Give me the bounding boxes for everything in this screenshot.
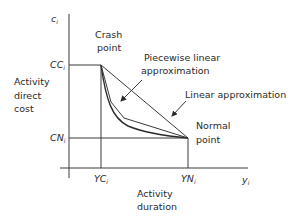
- piecewise-arrow: [121, 80, 142, 101]
- linear-label: Linear approximation: [185, 89, 286, 100]
- piecewise-label-line1: Piecewise linear: [144, 52, 220, 63]
- linear-arrow: [172, 101, 186, 116]
- x-axis-symbol: yi: [241, 174, 250, 186]
- yn-label: YNi: [181, 173, 196, 185]
- y-axis-label-line1: Activity: [14, 76, 50, 87]
- y-axis-symbol: ci: [51, 13, 58, 25]
- y-axis-label-line3: cost: [14, 103, 34, 114]
- x-axis-label-line2: duration: [137, 201, 177, 212]
- crash-point-label-line2: point: [97, 42, 122, 53]
- crash-point-label-line1: Crash: [95, 29, 122, 40]
- x-axis-label-line1: Activity: [137, 188, 173, 199]
- y-axis-label-line2: direct: [14, 90, 41, 101]
- cc-label: CCi: [50, 59, 65, 71]
- cn-label: CNi: [50, 132, 66, 144]
- normal-point-label-line2: point: [196, 134, 221, 145]
- normal-point-label-line1: Normal: [196, 120, 230, 131]
- cost-duration-diagram: ci yi CCi CNi YCi YNi Activity direct co…: [0, 0, 288, 222]
- piecewise-label-line2: approximation: [141, 65, 210, 76]
- yc-label: YCi: [94, 173, 108, 185]
